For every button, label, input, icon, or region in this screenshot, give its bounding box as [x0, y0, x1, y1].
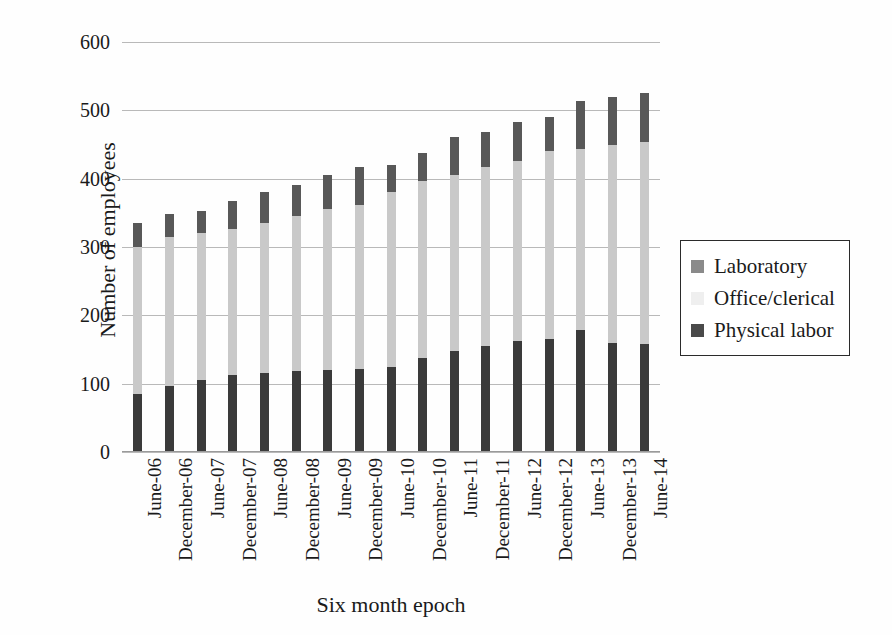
x-tick-label: June-14 — [651, 458, 670, 518]
x-axis-title: Six month epoch — [122, 592, 660, 618]
laboratory-swatch-icon — [691, 260, 704, 273]
bar-segment — [481, 132, 490, 168]
bar-column — [481, 132, 490, 452]
y-axis-title-wrapper: Number of employees — [18, 40, 58, 440]
legend-item-laboratory: Laboratory — [691, 250, 835, 282]
x-tick-label: June-07 — [208, 458, 227, 518]
bar-segment — [545, 339, 554, 452]
bar-segment — [576, 330, 585, 452]
bar-segment — [133, 223, 142, 247]
office-clerical-swatch-icon — [691, 292, 704, 305]
y-tick-label: 0 — [100, 442, 110, 462]
bar-segment — [228, 229, 237, 376]
bar-segment — [133, 394, 142, 452]
bar-segment — [513, 341, 522, 452]
y-tick-label: 200 — [80, 305, 110, 325]
x-tick-label: December-06 — [176, 458, 195, 561]
bar-segment — [165, 386, 174, 452]
legend-item-office-clerical: Office/clerical — [691, 282, 835, 314]
bar-segment — [545, 151, 554, 339]
bar-column — [513, 122, 522, 452]
bar-column — [355, 167, 364, 452]
plot-area: 0100200300400500600 — [122, 42, 660, 452]
bar-segment — [450, 175, 459, 351]
bar-segment — [481, 167, 490, 346]
bar-segment — [292, 371, 301, 452]
bar-segment — [387, 192, 396, 366]
bar-segment — [640, 344, 649, 452]
bar-segment — [260, 223, 269, 373]
x-tick-label: December-13 — [620, 458, 639, 561]
bar-segment — [323, 175, 332, 209]
gridline — [122, 452, 660, 453]
x-tick-label: June-08 — [271, 458, 290, 518]
bar-segment — [165, 214, 174, 237]
bar-segment — [133, 247, 142, 394]
bar-segment — [197, 211, 206, 234]
x-tick-label: December-10 — [430, 458, 449, 561]
bar-column — [228, 201, 237, 452]
bar-segment — [418, 181, 427, 357]
x-tick-label: December-09 — [366, 458, 385, 561]
bar-segment — [197, 380, 206, 452]
bar-segment — [292, 185, 301, 216]
bar-segment — [608, 343, 617, 452]
bar-segment — [292, 216, 301, 372]
y-tick-label: 600 — [80, 32, 110, 52]
bar-segment — [608, 97, 617, 145]
bar-segment — [545, 117, 554, 151]
bar-column — [323, 175, 332, 452]
bar-segment — [197, 233, 206, 380]
legend-label-laboratory: Laboratory — [714, 256, 807, 277]
bar-column — [260, 192, 269, 452]
bar-column — [133, 223, 142, 452]
x-tick-label: December-08 — [303, 458, 322, 561]
stacked-bar-chart: Number of employees 0100200300400500600 … — [0, 0, 892, 635]
x-tick-label: December-12 — [556, 458, 575, 561]
bar-column — [197, 211, 206, 452]
bar-column — [576, 101, 585, 452]
bar-segment — [355, 369, 364, 452]
bar-segment — [450, 351, 459, 452]
bar-segment — [355, 205, 364, 369]
y-tick-label: 500 — [80, 100, 110, 120]
bar-column — [640, 93, 649, 452]
bar-segment — [450, 137, 459, 175]
bar-segment — [228, 201, 237, 228]
x-tick-label: December-07 — [240, 458, 259, 561]
x-tick-label: June-09 — [335, 458, 354, 518]
bar-segment — [323, 209, 332, 370]
chart-legend: Laboratory Office/clerical Physical labo… — [680, 240, 850, 356]
x-tick-label: December-11 — [493, 458, 512, 560]
legend-label-office-clerical: Office/clerical — [714, 288, 835, 309]
bar-segment — [481, 346, 490, 452]
bar-segment — [640, 142, 649, 344]
bar-segment — [355, 167, 364, 205]
bar-segment — [165, 237, 174, 386]
bar-column — [608, 97, 617, 452]
y-tick-label: 100 — [80, 374, 110, 394]
y-tick-label: 400 — [80, 169, 110, 189]
x-axis-ticks: June-06December-06June-07December-07June… — [122, 458, 660, 578]
x-tick-label: June-10 — [398, 458, 417, 518]
bar-segment — [608, 145, 617, 343]
bar-segment — [513, 161, 522, 341]
bar-column — [292, 185, 301, 452]
bar-segment — [418, 358, 427, 452]
bar-segment — [387, 367, 396, 452]
bar-segment — [260, 373, 269, 452]
bar-segment — [513, 122, 522, 161]
x-axis-line — [122, 451, 660, 452]
bar-segment — [260, 192, 269, 223]
bar-segment — [387, 165, 396, 192]
bar-segment — [576, 101, 585, 149]
bar-column — [418, 153, 427, 452]
legend-item-physical-labor: Physical labor — [691, 314, 835, 346]
bar-group — [122, 42, 660, 452]
bar-column — [545, 117, 554, 452]
x-tick-label: June-06 — [145, 458, 164, 518]
legend-label-physical-labor: Physical labor — [714, 320, 834, 341]
x-tick-label: June-13 — [588, 458, 607, 518]
x-tick-label: June-12 — [525, 458, 544, 518]
bar-column — [450, 137, 459, 452]
